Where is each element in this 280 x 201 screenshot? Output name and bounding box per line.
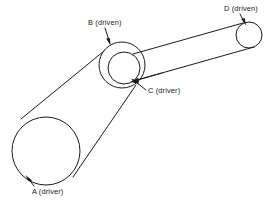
diagram-canvas: A (driver) B (driven) C (driver) D (driv… xyxy=(0,0,280,201)
belt-drive-diagram: A (driver) B (driven) C (driver) D (driv… xyxy=(0,0,280,201)
pulley-d xyxy=(236,22,262,48)
label-b: B (driven) xyxy=(88,18,122,27)
pulley-a xyxy=(12,117,80,185)
belt-c-d-upper-tangent xyxy=(133,23,243,54)
label-a: A (driver) xyxy=(32,187,63,196)
belt-c-to-d xyxy=(133,23,254,80)
belt-a-to-b xyxy=(21,51,136,177)
belt-a-b-upper-tangent xyxy=(21,51,104,119)
leader-b-arrow-icon xyxy=(106,38,110,45)
pulley-c xyxy=(108,52,140,84)
leader-a xyxy=(26,175,35,186)
label-c: C (driver) xyxy=(148,86,180,95)
leader-c-inner xyxy=(131,73,163,83)
leader-b xyxy=(105,28,111,46)
label-d: D (driven) xyxy=(224,4,258,13)
belt-a-b-lower-tangent xyxy=(73,85,136,177)
leader-a-arrow-icon xyxy=(26,175,33,181)
